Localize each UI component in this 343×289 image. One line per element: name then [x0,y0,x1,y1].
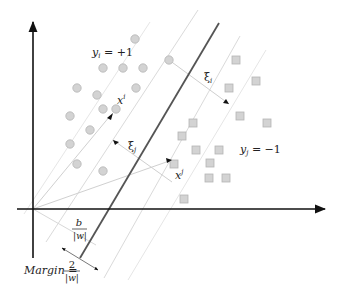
positive-point [165,56,173,64]
class-neg-label: yj = −1 [239,143,281,157]
positive-point [99,105,107,113]
positive-point [86,126,94,134]
bias-numerator: b [76,217,82,228]
negative-point [170,160,178,168]
negative-point [232,56,240,64]
negative-point [205,174,213,182]
point-xj-label: xj [175,168,184,182]
negative-class-points [170,56,271,203]
margin-numerator: 2 [69,259,75,270]
negative-point [222,174,230,182]
positive-point [99,167,107,175]
xi-j-label: ξj [128,140,137,154]
negative-point [178,132,186,140]
class-pos-label: yi = +1 [91,46,133,60]
negative-point [206,159,214,167]
left-margin-line [46,10,198,242]
negative-point [225,84,233,92]
svm-diagram: yi = +1 yj = −1 ξi ξj xi xj b |w| Margin… [0,0,343,289]
positive-point [93,91,101,99]
negative-point [252,77,260,85]
positive-point [66,140,74,148]
slack-j-arrowhead [113,140,119,145]
negative-point [180,195,188,203]
point-xi-label: xi [117,93,125,107]
negative-point [263,119,271,127]
positive-point [73,84,81,92]
positive-point [73,160,81,168]
slack-i-line [169,60,229,104]
positive-point [119,64,127,72]
negative-point [215,146,223,154]
margin-denominator: |w| [65,273,79,284]
negative-point [192,146,200,154]
negative-point [189,119,197,127]
positive-point [131,35,139,43]
positive-point [132,84,140,92]
positive-point [139,64,147,72]
slack-j-line [113,140,172,182]
negative-point [236,112,244,120]
bias-denominator: |w| [73,231,87,242]
positive-point [66,112,74,120]
positive-point [99,64,107,72]
xi-i-label: ξi [204,71,212,85]
